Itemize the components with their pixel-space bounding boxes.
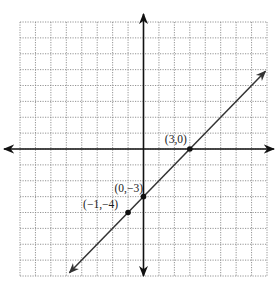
point-label: (3,0) (165, 133, 187, 146)
point-label: (−1,−4) (83, 198, 118, 211)
data-point (141, 194, 147, 200)
point-label: (0,−3) (115, 182, 144, 195)
data-point (125, 210, 131, 216)
coordinate-plane: (3,0)(0,−3)(−1,−4) (0, 0, 280, 294)
data-point (187, 146, 193, 152)
